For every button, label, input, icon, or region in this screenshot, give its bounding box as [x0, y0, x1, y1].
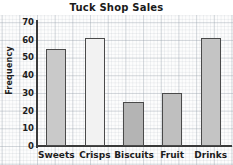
y-axis-tick-label: 50 — [4, 53, 34, 61]
y-axis-tick-label: 30 — [4, 89, 34, 97]
x-axis-category-label: Crisps — [76, 149, 115, 161]
bar — [85, 38, 105, 146]
x-axis-category-label: Biscuits — [114, 149, 153, 161]
x-axis-category-label: Drinks — [191, 149, 230, 161]
y-axis-tick-labels: 010203040506070 — [0, 0, 34, 165]
y-axis-tick-label: 40 — [4, 71, 34, 79]
y-axis-tick-label: 60 — [4, 36, 34, 44]
y-axis-tick-label: 10 — [4, 124, 34, 132]
plot-area — [37, 22, 230, 146]
bar-chart: Tuck Shop Sales Frequency 01020304050607… — [0, 0, 233, 165]
chart-title: Tuck Shop Sales — [0, 1, 233, 14]
y-axis-tick-label: 20 — [4, 107, 34, 115]
bar — [162, 93, 182, 146]
x-axis-category-label: Fruit — [153, 149, 192, 161]
x-axis-category-labels: SweetsCrispsBiscuitsFruitDrinks — [36, 147, 232, 163]
bar — [201, 38, 221, 146]
x-axis-category-label: Sweets — [37, 149, 76, 161]
y-axis-tick-label: 0 — [4, 142, 34, 150]
bar — [123, 102, 143, 146]
bar — [46, 49, 66, 146]
y-axis-tick-label: 70 — [4, 18, 34, 26]
